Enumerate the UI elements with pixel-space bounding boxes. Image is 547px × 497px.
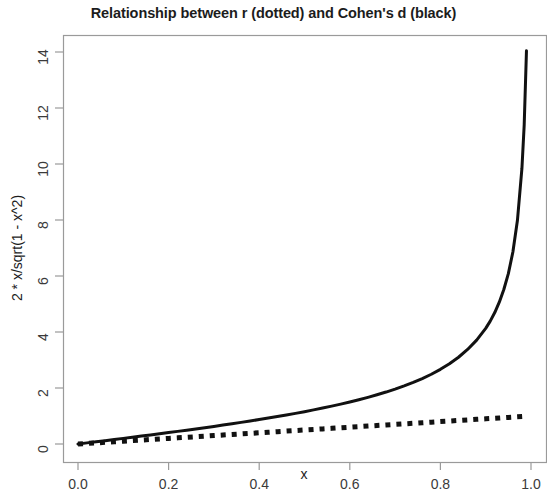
y-tick-label: 4 [35,333,51,341]
y-tick-label: 10 [35,161,51,177]
y-tick-label: 2 [35,389,51,397]
x-tick-label: 1.0 [521,476,541,492]
y-axis-title: 2 * x/sqrt(1 - x^2) [9,195,25,301]
y-tick-label: 14 [35,49,51,65]
y-tick-label: 12 [35,105,51,121]
x-tick-label: 0.4 [249,476,269,492]
plot-border [64,36,547,463]
x-tick-label: 0.2 [159,476,179,492]
x-tick-label: 0.0 [68,476,88,492]
series-line-r [78,416,526,444]
data-series-layer [78,51,526,444]
x-tick-label: 0.6 [340,476,360,492]
y-tick-label: 0 [35,445,51,453]
y-tick-label: 6 [35,277,51,285]
x-axis-title: x [301,466,308,482]
plot-area: 02468101214 0.00.20.40.60.81.0 x 2 * x/s… [0,0,547,497]
x-tick-label: 0.8 [431,476,451,492]
series-line-cohen-s-d [78,51,526,444]
y-tick-label: 8 [35,221,51,229]
chart-figure: Relationship between r (dotted) and Cohe… [0,0,547,497]
y-axis-ticks: 02468101214 [35,49,63,453]
